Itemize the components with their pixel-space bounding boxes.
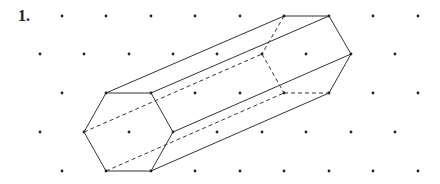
hidden-edge [262, 16, 284, 54]
visible-edge [329, 16, 351, 54]
grid-dot [194, 170, 197, 173]
grid-dot [39, 53, 42, 56]
grid-dot [350, 53, 353, 56]
grid-dot [216, 53, 219, 56]
grid-dot [105, 170, 108, 173]
grid-dot [239, 92, 242, 95]
visible-edge [151, 93, 173, 132]
grid-dot [105, 92, 108, 95]
grid-dot [39, 131, 42, 134]
grid-dot [61, 170, 64, 173]
grid-dot [372, 170, 375, 173]
grid-dot [394, 53, 397, 56]
grid-dot [194, 92, 197, 95]
visible-edge [151, 93, 329, 171]
grid-dot [83, 53, 86, 56]
grid-dot [372, 92, 375, 95]
grid-dot [328, 170, 331, 173]
grid-dot [194, 15, 197, 18]
grid-dot [172, 131, 175, 134]
grid-dot [350, 131, 353, 134]
visible-edge [84, 132, 106, 171]
visible-edge [84, 93, 106, 132]
grid-dot [128, 131, 131, 134]
grid-dot [83, 131, 86, 134]
grid-dot [61, 15, 64, 18]
grid-dot [61, 92, 64, 95]
visible-edge [173, 54, 351, 132]
grid-dot [239, 170, 242, 173]
grid-dot [150, 92, 153, 95]
grid-dot [394, 131, 397, 134]
grid-dot [417, 170, 420, 173]
grid-dot [283, 170, 286, 173]
visible-edge [329, 54, 351, 93]
visible-edge [106, 16, 284, 93]
grid-dot [239, 15, 242, 18]
grid-dot [261, 131, 264, 134]
grid-dot [128, 53, 131, 56]
visible-edge [151, 16, 329, 93]
isometric-hexagonal-prism-diagram [0, 0, 440, 184]
grid-dot [305, 53, 308, 56]
grid-dot [172, 53, 175, 56]
grid-dot [283, 92, 286, 95]
hidden-edge [262, 54, 284, 93]
grid-dot [150, 170, 153, 173]
hidden-edge [106, 93, 284, 171]
grid-dot [417, 15, 420, 18]
grid-dot [328, 15, 331, 18]
grid-dot [328, 92, 331, 95]
grid-dot [417, 92, 420, 95]
grid-dot [150, 15, 153, 18]
grid-dot [216, 131, 219, 134]
visible-edge [151, 132, 173, 171]
grid-dot [283, 15, 286, 18]
grid-dot [305, 131, 308, 134]
grid-dot [261, 53, 264, 56]
grid-dot [105, 15, 108, 18]
grid-dot [372, 15, 375, 18]
